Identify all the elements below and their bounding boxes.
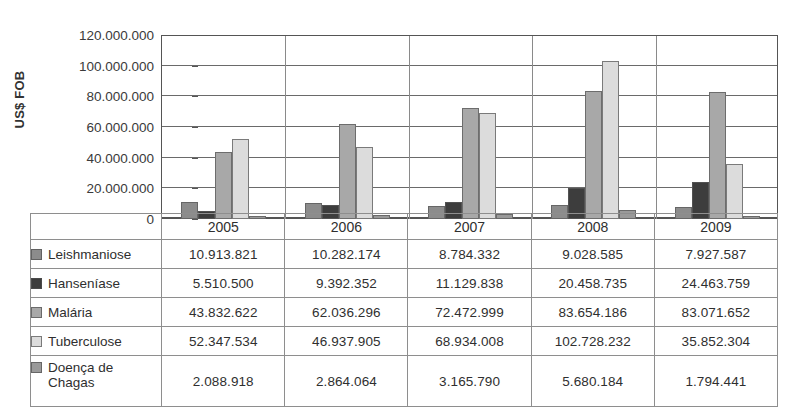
bar	[709, 92, 726, 219]
table-value-cell: 43.832.622	[162, 298, 285, 327]
table-value-cell: 3.165.790	[408, 356, 531, 407]
data-table: 20052006200720082009 Leishmaniose10.913.…	[30, 213, 778, 407]
plot-inner	[162, 36, 777, 219]
table-row: Malária43.832.62262.036.29672.472.99983.…	[31, 298, 778, 327]
bar	[356, 147, 373, 219]
bar	[339, 124, 356, 219]
table-value-cell: 102.728.232	[531, 327, 654, 356]
series-label-text: Malária	[48, 305, 92, 320]
table-value-cell: 1.794.441	[654, 356, 777, 407]
bar-group	[532, 36, 655, 219]
table-value-cell: 10.913.821	[162, 240, 285, 269]
table-value-cell: 9.392.352	[285, 269, 408, 298]
legend-swatch-icon	[31, 249, 42, 260]
table-value-cell: 35.852.304	[654, 327, 777, 356]
table-row: Leishmaniose10.913.82110.282.1748.784.33…	[31, 240, 778, 269]
bar-group	[409, 36, 532, 219]
table-value-cell: 7.927.587	[654, 240, 777, 269]
table-value-cell: 24.463.759	[654, 269, 777, 298]
legend-swatch-icon	[31, 362, 42, 373]
bar-group	[285, 36, 408, 219]
table-row: Tuberculose52.347.53446.937.90568.934.00…	[31, 327, 778, 356]
chart-figure: US$ FOB 020.000.00040.000.00060.000.0008…	[0, 0, 798, 409]
table-value-cell: 20.458.735	[531, 269, 654, 298]
table-year-header: 2006	[285, 214, 408, 240]
y-tick-label: 80.000.000	[36, 89, 154, 104]
y-tick-label: 20.000.000	[36, 181, 154, 196]
series-label-cell: Tuberculose	[31, 327, 162, 356]
series-label-cell: Leishmaniose	[31, 240, 162, 269]
y-tick-label: 40.000.000	[36, 150, 154, 165]
table-corner-cell	[31, 214, 162, 240]
table-body: Leishmaniose10.913.82110.282.1748.784.33…	[31, 240, 778, 407]
series-label-text: Leishmaniose	[48, 247, 131, 262]
table-value-cell: 46.937.905	[285, 327, 408, 356]
table-value-cell: 11.129.838	[408, 269, 531, 298]
table-value-cell: 2.864.064	[285, 356, 408, 407]
table-value-cell: 83.071.652	[654, 298, 777, 327]
table-value-cell: 2.088.918	[162, 356, 285, 407]
bar-group	[656, 36, 779, 219]
plot-area	[161, 35, 778, 219]
bar	[232, 139, 249, 219]
table-value-cell: 5.510.500	[162, 269, 285, 298]
table-year-header: 2007	[408, 214, 531, 240]
table-value-cell: 5.680.184	[531, 356, 654, 407]
bar-group	[162, 36, 285, 219]
table-value-cell: 9.028.585	[531, 240, 654, 269]
y-axis-tick-labels: 020.000.00040.000.00060.000.00080.000.00…	[36, 28, 154, 220]
bar	[215, 152, 232, 219]
table-value-cell: 62.036.296	[285, 298, 408, 327]
table-year-header: 2008	[531, 214, 654, 240]
y-tick-label: 120.000.000	[36, 28, 154, 43]
bar	[462, 108, 479, 219]
bar	[585, 91, 602, 219]
y-tick-label: 60.000.000	[36, 120, 154, 135]
series-label-text: Doença deChagas	[48, 360, 113, 390]
table-value-cell: 68.934.008	[408, 327, 531, 356]
table-value-cell: 10.282.174	[285, 240, 408, 269]
legend-swatch-icon	[31, 278, 42, 289]
bar	[726, 164, 743, 219]
series-label-cell: Doença deChagas	[31, 356, 162, 407]
bar	[602, 61, 619, 219]
bar	[479, 113, 496, 219]
series-label-text: Tuberculose	[48, 334, 122, 349]
series-label-text: Hanseníase	[48, 276, 120, 291]
y-tick-label: 100.000.000	[36, 58, 154, 73]
series-label-cell: Malária	[31, 298, 162, 327]
series-label-cell: Hanseníase	[31, 269, 162, 298]
table-value-cell: 83.654.186	[531, 298, 654, 327]
table-value-cell: 72.472.999	[408, 298, 531, 327]
data-table-wrapper: 20052006200720082009 Leishmaniose10.913.…	[30, 213, 778, 405]
cropped-title-remnant	[108, 0, 528, 7]
legend-swatch-icon	[31, 307, 42, 318]
table-value-cell: 8.784.332	[408, 240, 531, 269]
table-row: Doença deChagas2.088.9182.864.0643.165.7…	[31, 356, 778, 407]
table-year-header: 2009	[654, 214, 777, 240]
table-header-row: 20052006200720082009	[31, 214, 778, 240]
table-year-header: 2005	[162, 214, 285, 240]
legend-swatch-icon	[31, 336, 42, 347]
table-row: Hanseníase5.510.5009.392.35211.129.83820…	[31, 269, 778, 298]
table-value-cell: 52.347.534	[162, 327, 285, 356]
y-axis-title: US$ FOB	[12, 50, 27, 150]
